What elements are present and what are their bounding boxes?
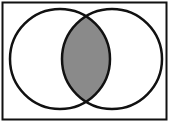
- venn-diagram: [0, 0, 169, 125]
